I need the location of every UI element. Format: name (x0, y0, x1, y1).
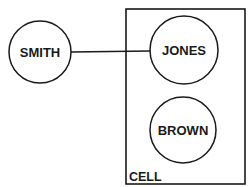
diagram-canvas: SMITH JONES BROWN CELL (0, 0, 249, 187)
node-brown: BROWN (150, 97, 216, 163)
node-smith: SMITH (9, 21, 71, 83)
node-brown-label: BROWN (158, 123, 209, 138)
node-jones: JONES (150, 16, 218, 84)
node-smith-label: SMITH (20, 45, 60, 60)
node-jones-label: JONES (162, 43, 206, 58)
edge-smith-jones (71, 51, 150, 52)
cell-label: CELL (129, 170, 162, 184)
